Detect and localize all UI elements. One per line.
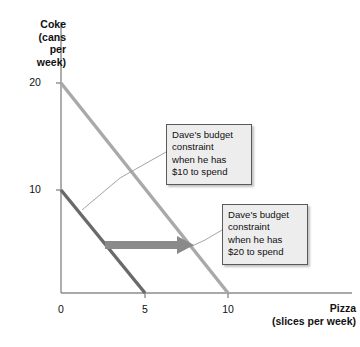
leader-line-budget-20 bbox=[190, 230, 222, 247]
shift-arrow-icon bbox=[105, 236, 194, 254]
x-tick-label-10: 10 bbox=[214, 303, 242, 315]
callout-budget-constraint-20: Dave's budget constraint when he has $20… bbox=[222, 204, 308, 265]
y-tick-label-20: 20 bbox=[21, 76, 49, 88]
callout-budget-constraint-10: Dave's budget constraint when he has $10… bbox=[166, 124, 252, 185]
x-tick-label-0: 0 bbox=[47, 303, 75, 315]
budget-constraint-chart: Coke (cans per week) Pizza (slices per w… bbox=[0, 0, 360, 347]
x-tick-label-5: 5 bbox=[131, 303, 159, 315]
y-axis-title: Coke (cans per week) bbox=[8, 18, 66, 68]
y-tick-label-10: 10 bbox=[21, 183, 49, 195]
x-axis-title: Pizza (slices per week) bbox=[258, 302, 356, 327]
budget-line-20-dollars bbox=[61, 83, 228, 293]
